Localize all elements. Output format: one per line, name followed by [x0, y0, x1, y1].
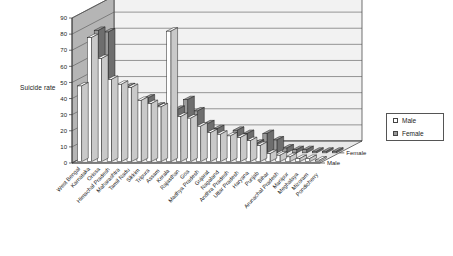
legend-item-female[interactable]: Female [387, 127, 443, 140]
bar-male-17 [246, 137, 257, 161]
bar-male-8 [157, 103, 168, 161]
legend-item-male[interactable]: Male [387, 114, 443, 127]
bar-male-3 [107, 76, 118, 162]
chart-legend: Male Female [386, 113, 444, 141]
y-axis-tick-10: 10 [60, 144, 67, 150]
y-axis-tick-60: 60 [60, 64, 67, 70]
bar-male-14 [216, 131, 227, 162]
y-axis-tick-30: 30 [60, 112, 67, 118]
y-axis-tick-70: 70 [60, 47, 67, 53]
chart-root: Suicide rate 0102030405060708090West Ben… [0, 0, 453, 256]
z-axis-label-female: Female [346, 150, 367, 156]
bar-male-12 [196, 123, 207, 162]
bar-male-1 [87, 34, 98, 162]
bar-male-0 [77, 82, 88, 161]
bar-male-2 [97, 55, 108, 162]
legend-swatch-male-icon [393, 118, 398, 123]
bar-male-11 [187, 115, 198, 162]
y-axis-tick-50: 50 [60, 80, 67, 86]
bar-male-4 [117, 81, 128, 162]
bar-male-13 [206, 129, 217, 162]
bar-male-9 [167, 28, 178, 162]
bar-male-18 [256, 142, 267, 162]
bar-male-15 [226, 132, 237, 161]
y-axis-tick-40: 40 [60, 96, 67, 102]
y-axis-tick-90: 90 [60, 15, 67, 21]
bar-male-10 [177, 113, 188, 162]
z-axis-label-male: Male [327, 160, 341, 166]
bar-male-16 [236, 134, 247, 162]
bar-male-7 [147, 100, 158, 162]
bar-male-6 [137, 97, 148, 162]
y-axis-tick-80: 80 [60, 31, 67, 37]
y-axis-tick-0: 0 [64, 160, 68, 166]
legend-label-female: Female [402, 130, 424, 137]
bar-male-5 [127, 84, 138, 162]
legend-label-male: Male [402, 117, 416, 124]
y-axis-tick-20: 20 [60, 128, 67, 134]
legend-swatch-female-icon [393, 131, 398, 136]
